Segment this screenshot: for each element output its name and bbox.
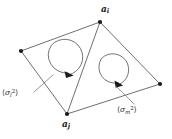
figure-canvas: ai aj ⟨σl2⟩ ⟨σm2⟩ [0, 0, 172, 139]
node-label-a-i-subscript: i [107, 7, 109, 15]
node-a-i[interactable] [98, 20, 102, 24]
circulation-arrow-right-arc [99, 54, 129, 85]
node-label-a-j-subscript: j [68, 122, 70, 130]
edge-right-to-bottom [67, 84, 160, 114]
diagonal-edge-group [67, 22, 100, 114]
node-a-j[interactable] [65, 112, 69, 116]
edge-left-to-top [21, 22, 100, 51]
node-label-a-j: aj [62, 120, 70, 130]
diagonal-ai-to-aj [67, 22, 100, 114]
circulation-arrow-left-head [65, 71, 74, 78]
leader-line-variance-m [116, 86, 134, 104]
edge-bottom-to-left [21, 51, 67, 114]
plaquette-diagram-svg [0, 0, 172, 139]
lattice-nodes [19, 20, 162, 116]
circulation-left-group [48, 39, 82, 78]
circulation-right-group [99, 54, 129, 88]
variance-label-l: ⟨σl2⟩ [2, 89, 18, 98]
quadrilateral-edges [21, 22, 160, 114]
node-left[interactable] [19, 49, 23, 53]
node-right[interactable] [158, 82, 162, 86]
variance-l-bracket-close: ⟩ [15, 88, 18, 97]
variance-m-bracket-close: ⟩ [134, 105, 137, 114]
edge-top-to-right [100, 22, 160, 84]
circulation-arrow-left-arc [48, 39, 82, 75]
leader-line-variance-l [34, 75, 53, 92]
circulation-arrow-right-head [115, 81, 124, 88]
variance-label-m: ⟨σm2⟩ [117, 106, 137, 115]
node-label-a-i: ai [101, 5, 109, 15]
